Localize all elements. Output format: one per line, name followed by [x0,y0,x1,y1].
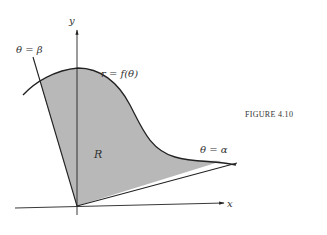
figure-caption: FIGURE 4.10 [245,110,293,119]
x-axis-label: x [227,198,233,209]
ray-beta-label: θ = β [16,44,43,55]
region-label: R [93,148,102,161]
ray-alpha-label: θ = α [200,144,228,155]
curve-label: r = f(θ) [101,68,138,79]
x-axis [15,203,224,208]
region-r-shading [40,68,222,206]
y-axis-label: y [68,15,75,26]
polar-region-figure: y x r = f(θ) θ = β θ = α R FIGURE 4.10 [0,0,327,235]
